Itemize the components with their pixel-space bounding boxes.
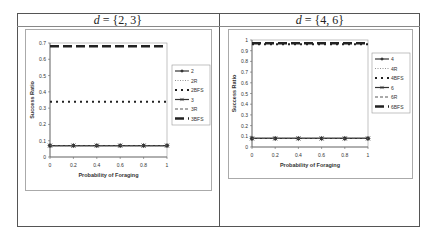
y-tick-label: 0.6 bbox=[39, 56, 46, 62]
legend-label: 2 bbox=[191, 68, 194, 74]
legend-label: 4R bbox=[391, 66, 398, 72]
y-tick-label: 1 bbox=[245, 37, 248, 43]
panel-title-text: = {4, 6} bbox=[302, 13, 344, 27]
legend-label: 6R bbox=[391, 94, 398, 100]
y-tick-label: 0.8 bbox=[241, 58, 248, 64]
x-tick-label: 0.2 bbox=[272, 152, 279, 158]
chart-left: 00.10.20.30.40.50.60.700.20.40.60.81Prob… bbox=[25, 29, 212, 191]
y-tick-label: 0.7 bbox=[241, 69, 248, 75]
y-tick-label: 0.7 bbox=[39, 40, 46, 46]
legend-label: 2R bbox=[191, 78, 198, 84]
panel-title-text: = {2, 3} bbox=[100, 13, 142, 27]
panel-title-left: d = {2, 3} bbox=[17, 13, 219, 27]
x-tick-label: 0 bbox=[251, 152, 254, 158]
x-tick-label: 0.4 bbox=[93, 162, 100, 168]
y-tick-label: 0.4 bbox=[241, 101, 248, 107]
legend-label: 4BFS bbox=[391, 75, 404, 81]
plot-area bbox=[252, 40, 368, 147]
y-tick-label: 0.4 bbox=[39, 89, 46, 95]
x-tick-label: 1 bbox=[367, 152, 370, 158]
x-axis-label: Probability of Foraging bbox=[280, 162, 340, 168]
x-tick-label: 0.8 bbox=[341, 152, 348, 158]
x-tick-label: 0.6 bbox=[318, 152, 325, 158]
legend: 22R2BFS33R3BFS bbox=[172, 65, 210, 125]
y-tick-label: 0.5 bbox=[241, 91, 248, 97]
y-tick-label: 0.3 bbox=[241, 112, 248, 118]
y-tick-label: 0 bbox=[245, 144, 248, 150]
legend-label: 3R bbox=[191, 106, 198, 112]
legend-label: 2BFS bbox=[191, 87, 204, 93]
x-axis-label: Probability of Foraging bbox=[78, 172, 138, 178]
y-tick-label: 0 bbox=[43, 154, 46, 160]
y-tick-label: 0.2 bbox=[39, 121, 46, 127]
x-tick-label: 0.4 bbox=[295, 152, 302, 158]
legend-label: 6 bbox=[391, 85, 394, 91]
y-tick-label: 0.5 bbox=[39, 73, 46, 79]
x-tick-label: 1 bbox=[166, 162, 169, 168]
chart-right: 00.10.20.30.40.50.60.70.80.9100.20.40.60… bbox=[228, 29, 413, 179]
legend-label: 4 bbox=[391, 56, 394, 62]
y-tick-label: 0.6 bbox=[241, 80, 248, 86]
legend-label: 3 bbox=[191, 97, 194, 103]
y-tick-label: 0.2 bbox=[241, 123, 248, 129]
y-tick-label: 0.1 bbox=[39, 138, 46, 144]
y-axis-label: Success Ratio bbox=[29, 81, 35, 119]
panel-title-right: d = {4, 6} bbox=[220, 13, 420, 27]
x-tick-label: 0.2 bbox=[70, 162, 77, 168]
y-tick-label: 0.1 bbox=[241, 133, 248, 139]
y-tick-label: 0.3 bbox=[39, 105, 46, 111]
table-divider bbox=[219, 13, 220, 227]
legend-label: 6BFS bbox=[391, 104, 404, 110]
x-tick-label: 0 bbox=[49, 162, 52, 168]
x-tick-label: 0.6 bbox=[117, 162, 124, 168]
legend: 44R4BFS66R6BFS bbox=[372, 53, 410, 113]
x-tick-label: 0.8 bbox=[140, 162, 147, 168]
y-axis-label: Success Ratio bbox=[231, 74, 237, 112]
legend-label: 3BFS bbox=[191, 116, 204, 122]
plot-area bbox=[50, 43, 167, 157]
y-tick-label: 0.9 bbox=[241, 48, 248, 54]
